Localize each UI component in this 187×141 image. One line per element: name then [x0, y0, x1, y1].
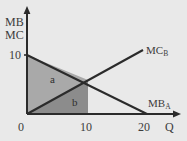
x-tick-label-20: 20	[138, 121, 150, 133]
x-tick-label-10: 10	[80, 121, 92, 133]
y-tick-label-10: 10	[9, 49, 21, 61]
chart-plot-area	[0, 0, 187, 141]
x-axis-arrow-icon	[173, 111, 181, 118]
curve-label-mc-b: MCB	[146, 45, 168, 56]
curve-label-mc-b-text: MC	[146, 44, 163, 56]
region-label-a: a	[50, 74, 55, 85]
region-label-b: b	[72, 97, 78, 108]
curve-label-mb-a-subscript: A	[165, 102, 170, 111]
curve-label-mb-a: MBA	[148, 98, 171, 109]
curve-label-mc-b-subscript: B	[163, 49, 168, 58]
y-axis-arrow-icon	[24, 6, 31, 14]
chart-screenshot: MB MC 10 0 10 20 Q MCB MBA a b	[0, 0, 187, 141]
x-tick-label-0: 0	[18, 121, 24, 133]
x-axis-label-q: Q	[165, 121, 174, 133]
curve-label-mb-a-text: MB	[148, 97, 165, 109]
y-axis-label-mb: MB	[5, 16, 24, 28]
y-axis-label-mc: MC	[5, 29, 24, 41]
